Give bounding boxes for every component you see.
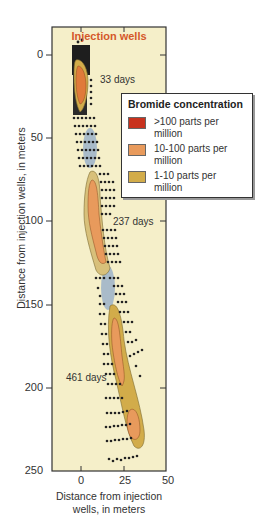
legend-title: Bromide concentration: [128, 98, 243, 110]
x-tick-0: 0: [66, 474, 96, 486]
y-tick-200: 200: [13, 381, 43, 393]
x-axis-label-line1: Distance from injection: [52, 490, 166, 503]
legend-swatch-medium: [128, 144, 146, 156]
legend-label-low-line2: million: [154, 182, 254, 194]
legend-label-low: 1-10 parts per million: [154, 170, 254, 194]
y-tick-250: 250: [13, 464, 43, 476]
legend-swatch-low: [128, 171, 146, 183]
annotation-33-days: 33 days: [100, 74, 135, 85]
legend-swatch-high: [128, 117, 146, 129]
x-axis-label: Distance from injection wells, in meters: [52, 490, 166, 516]
y-axis-label: Distance from injection wells, in meters: [15, 118, 27, 318]
legend-label-medium-line2: million: [154, 155, 254, 167]
legend-label-high-line2: million: [154, 128, 254, 140]
x-tick-25: 25: [110, 474, 140, 486]
annotation-461-days: 461 days: [66, 372, 107, 383]
chart-title: Injection wells: [52, 30, 166, 42]
legend-label-high: >100 parts per million: [154, 116, 254, 140]
legend: Bromide concentration >100 parts per mil…: [121, 93, 253, 198]
legend-label-low-line1: 1-10 parts per: [154, 170, 254, 182]
annotation-237-days: 237 days: [113, 216, 154, 227]
y-tick-0: 0: [13, 48, 43, 60]
legend-label-medium-line1: 10-100 parts per: [154, 143, 254, 155]
x-axis-label-line2: wells, in meters: [52, 503, 166, 516]
legend-label-medium: 10-100 parts per million: [154, 143, 254, 167]
legend-label-high-line1: >100 parts per: [154, 116, 254, 128]
x-tick-50: 50: [153, 474, 183, 486]
